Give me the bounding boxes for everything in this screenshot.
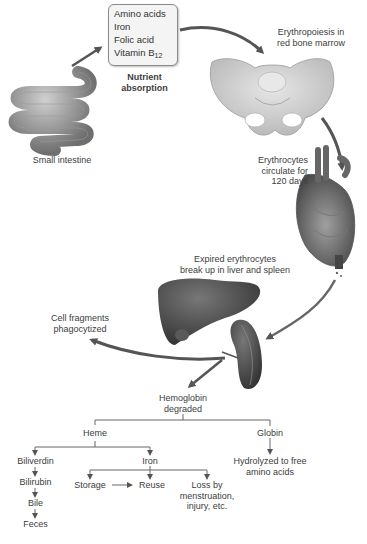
- nutrient-iron: Iron: [114, 20, 172, 33]
- bile-node: Bile: [8, 498, 63, 509]
- nutrient-list-box: Amino acids Iron Folic acid Vitamin B12: [108, 4, 178, 66]
- bilirubin-node: Bilirubin: [8, 477, 63, 488]
- reuse-node: Reuse: [132, 480, 172, 491]
- nutrient-vitamin-b12: Vitamin B12: [114, 46, 172, 59]
- feces-node: Feces: [8, 519, 63, 530]
- spleen-illustration: [222, 320, 262, 389]
- nutrient-absorption-label: Nutrient absorption: [117, 72, 172, 93]
- nutrient-folic-acid: Folic acid: [114, 33, 172, 46]
- biliverdin-node: Biliverdin: [8, 456, 63, 467]
- nutrient-amino-acids: Amino acids: [114, 7, 172, 20]
- small-intestine-label: Small intestine: [22, 155, 102, 166]
- heme-node: Heme: [75, 428, 115, 439]
- erythropoiesis-label: Erythropoiesis in red bone marrow: [266, 27, 356, 48]
- iron-node: Iron: [130, 456, 170, 467]
- small-intestine-illustration: [15, 72, 91, 150]
- iron-loss-node: Loss by menstruation, injury, etc.: [172, 480, 242, 512]
- globin-node: Globin: [250, 428, 290, 439]
- phagocytized-label: Cell fragments phagocytized: [40, 313, 120, 334]
- breakup-label: Expired erythrocytes break up in liver a…: [160, 254, 310, 275]
- hydrolyzed-node: Hydrolyzed to free amino acids: [225, 456, 315, 477]
- pelvis-illustration: [210, 59, 334, 135]
- hemoglobin-degraded-node: Hemoglobin degraded: [148, 393, 218, 414]
- storage-node: Storage: [68, 480, 112, 491]
- circulation-label: Erythrocytes circulate for 120 days: [240, 155, 308, 187]
